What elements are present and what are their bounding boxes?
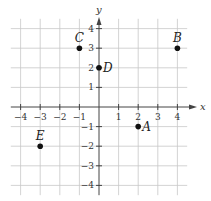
y-tick-label: −4 bbox=[81, 180, 95, 190]
y-tick-label: 4 bbox=[88, 24, 94, 34]
point-label-e: E bbox=[35, 129, 45, 143]
x-tick-label: −2 bbox=[53, 112, 66, 122]
x-tick-label: −4 bbox=[14, 112, 28, 122]
point-label-c: C bbox=[75, 31, 84, 45]
y-tick-label: −3 bbox=[81, 161, 95, 171]
point-label-b: B bbox=[172, 31, 182, 45]
y-tick-label: 1 bbox=[88, 82, 94, 92]
point-b bbox=[175, 45, 181, 51]
x-tick-label: −3 bbox=[34, 112, 48, 122]
point-c bbox=[77, 45, 83, 51]
point-a bbox=[135, 124, 141, 130]
point-label-d: D bbox=[102, 61, 113, 75]
x-tick-label: −1 bbox=[73, 112, 86, 122]
x-tick-label: 1 bbox=[116, 112, 122, 122]
x-tick-label: 4 bbox=[175, 112, 181, 122]
point-e bbox=[37, 143, 43, 149]
x-axis-arrow-icon bbox=[189, 105, 197, 110]
data-points: ABCDE bbox=[35, 31, 182, 149]
y-axis-arrow-icon bbox=[97, 17, 102, 25]
y-tick-label: 3 bbox=[88, 43, 94, 53]
point-d bbox=[96, 65, 102, 71]
x-tick-label: 2 bbox=[135, 112, 141, 122]
y-tick-label: −2 bbox=[81, 141, 94, 151]
y-tick-label: 2 bbox=[88, 63, 94, 73]
x-axis-label: x bbox=[200, 101, 206, 112]
y-tick-label: −1 bbox=[81, 122, 94, 132]
coordinate-plane: xy −4−3−2−112344321−1−2−3−4 ABCDE bbox=[0, 0, 211, 201]
x-tick-label: 3 bbox=[155, 112, 161, 122]
y-axis-label: y bbox=[95, 4, 102, 15]
point-label-a: A bbox=[141, 120, 151, 134]
